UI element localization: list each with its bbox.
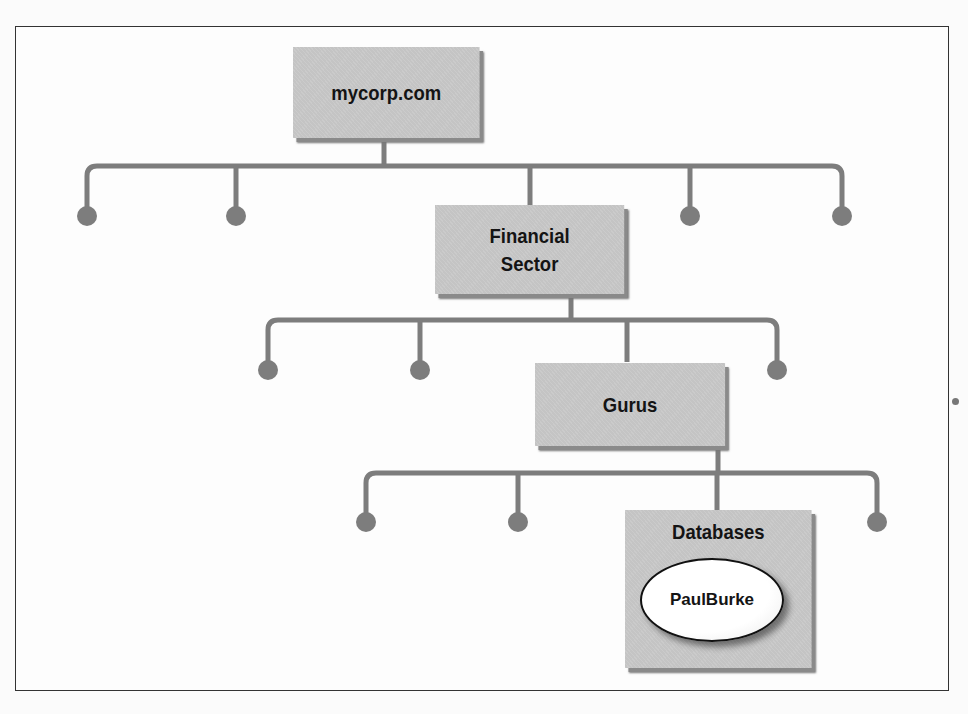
user-object-label: PaulBurke [670, 590, 754, 610]
node-label: Databases [672, 518, 764, 546]
leaf-dot [680, 206, 700, 226]
node-label: mycorp.com [331, 79, 441, 107]
leaf-dot [867, 512, 887, 532]
leaf-dot [226, 206, 246, 226]
leaf-dot [77, 206, 97, 226]
node-label-line-1: Financial [490, 222, 570, 250]
node-financial-sector: Financial Sector [435, 205, 624, 294]
node-mycorp-com: mycorp.com [293, 47, 480, 138]
leaf-dot [410, 360, 430, 380]
node-gurus: Gurus [535, 363, 725, 446]
leaf-dot [508, 512, 528, 532]
node-label: Gurus [603, 391, 657, 419]
leaf-dot [356, 512, 376, 532]
leaf-dot [832, 206, 852, 226]
node-label-line-2: Sector [490, 250, 570, 278]
connector-lines [0, 0, 968, 714]
margin-mark [952, 398, 959, 405]
leaf-dot [258, 360, 278, 380]
user-object-ellipse: PaulBurke [640, 558, 784, 642]
leaf-dot [767, 360, 787, 380]
